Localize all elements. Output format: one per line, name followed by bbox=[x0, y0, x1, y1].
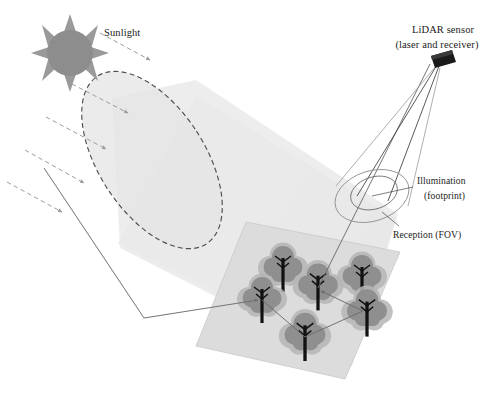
lidar-sensor-label-line2: (laser and receiver) bbox=[395, 39, 478, 51]
illumination-label-line1: Illumination bbox=[417, 175, 466, 186]
sun-icon bbox=[31, 14, 109, 92]
lidar-forest-diagram: Sunlight bbox=[0, 0, 489, 393]
lidar-sensor-label-line1: LiDAR sensor bbox=[412, 24, 475, 35]
sunlight-label: Sunlight bbox=[104, 27, 140, 38]
figure-root: Sunlight bbox=[0, 0, 489, 393]
reception-label: Reception (FOV) bbox=[393, 229, 461, 241]
illumination-label-line2: (footprint) bbox=[424, 190, 465, 202]
lidar-sensor-icon bbox=[431, 50, 456, 68]
